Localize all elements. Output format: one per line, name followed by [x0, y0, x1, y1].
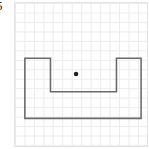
problem-number-label: 5	[0, 0, 10, 14]
figure-root: 5	[0, 0, 149, 149]
grid-vertical-lines	[15, 3, 138, 146]
grid-lines	[15, 3, 147, 146]
grid-panel	[14, 2, 148, 147]
